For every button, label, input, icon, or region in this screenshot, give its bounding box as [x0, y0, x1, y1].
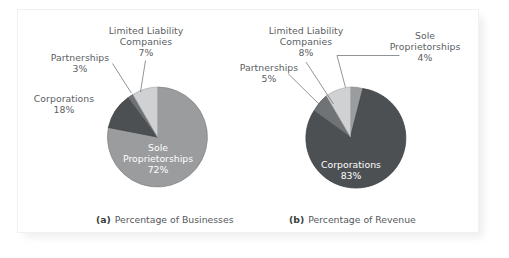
pie-b-label-sole-proprietorships-line2: Proprietorships [384, 41, 466, 52]
pie-a-label-corporations-line2: 18% [29, 104, 99, 115]
pie-a-label-sole-proprietorships-line3: 72% [112, 164, 204, 175]
caption-chart-b: (b)Percentage of Revenue [289, 214, 416, 226]
caption-chart-b-text: Percentage of Revenue [308, 214, 416, 225]
pie-b-label-partnerships-line2: 5% [234, 73, 304, 84]
pie-a-label-llc-line2: Companies [104, 36, 188, 47]
pie-b-label-corporations-line1: Corporations [308, 159, 394, 170]
pie-b-label-limited-liability-companies: Limited Liability Companies 8% [264, 25, 348, 59]
charts-panel: Sole Proprietorships 72% Corporations 18… [0, 0, 509, 258]
pie-b-label-corporations: Corporations 83% [308, 159, 394, 181]
pie-b-label-llc-line1: Limited Liability [264, 25, 348, 36]
pie-a-label-llc-line3: 7% [104, 47, 188, 58]
pie-b-label-sole-proprietorships-line1: Sole [384, 30, 466, 41]
pie-a-label-corporations: Corporations 18% [29, 93, 99, 115]
caption-chart-b-marker: (b) [289, 214, 304, 225]
pie-b-label-llc-line2: Companies [264, 36, 348, 47]
leader-line-a-partnerships [113, 64, 132, 94]
caption-chart-a-text: Percentage of Businesses [115, 214, 234, 225]
pie-b-label-sole-proprietorships-line3: 4% [384, 52, 466, 63]
pie-a-label-partnerships-line2: 3% [45, 63, 115, 74]
caption-chart-a-marker: (a) [96, 214, 111, 225]
leader-line-b-llc [306, 62, 334, 104]
pie-b-label-corporations-line2: 83% [308, 170, 394, 181]
pie-b-label-llc-line3: 8% [264, 47, 348, 58]
pie-a-label-corporations-line1: Corporations [29, 93, 99, 104]
pie-a-label-sole-proprietorships-line2: Proprietorships [112, 153, 204, 164]
caption-chart-a: (a)Percentage of Businesses [96, 214, 234, 226]
pie-b-label-partnerships-line1: Partnerships [234, 62, 304, 73]
leader-line-a-llc [141, 61, 146, 93]
pie-a-label-llc-line1: Limited Liability [104, 25, 188, 36]
pie-b-label-partnerships: Partnerships 5% [234, 62, 304, 84]
pie-b-label-sole-proprietorships: Sole Proprietorships 4% [384, 30, 466, 64]
pie-a-label-sole-proprietorships: Sole Proprietorships 72% [112, 142, 204, 176]
pie-a-label-limited-liability-companies: Limited Liability Companies 7% [104, 25, 188, 59]
pie-a-label-sole-proprietorships-line1: Sole [112, 142, 204, 153]
figure-root: Sole Proprietorships 72% Corporations 18… [0, 0, 509, 258]
